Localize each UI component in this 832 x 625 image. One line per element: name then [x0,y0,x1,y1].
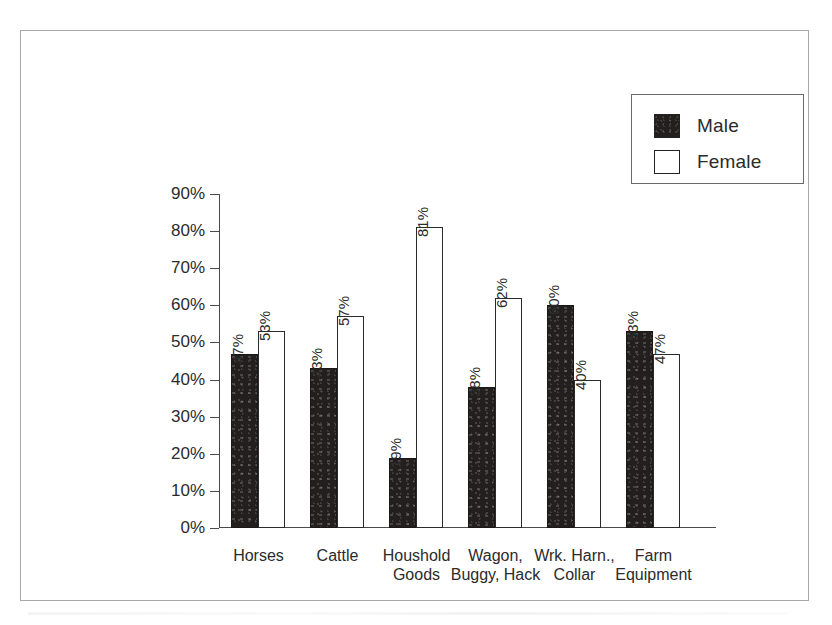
y-axis-tick [210,528,219,529]
bar-female[interactable]: 57% [337,316,364,528]
bar-group: 43%57% [310,194,365,528]
bar-female[interactable]: 62% [495,298,522,528]
y-axis-tick-label: 0% [180,518,205,538]
bar-male[interactable]: 47% [231,354,258,528]
y-axis-tick-label: 50% [171,332,205,352]
y-axis-tick [210,454,219,455]
chart-frame: Male Female 90%80%70%60%50%40%30%20%10%0… [20,30,809,601]
x-axis-category-label: FarmEquipment [604,546,704,584]
bar-group: 47%53% [231,194,286,528]
y-axis-tick-label: 30% [171,407,205,427]
legend-label-female: Female [697,151,762,173]
y-axis-tick-label: 10% [171,481,205,501]
y-axis-tick-label: 20% [171,444,205,464]
bar-group: 38%62% [468,194,523,528]
y-axis-tick [210,342,219,343]
bar-value-label: 53% [625,311,640,341]
bar-value-label: 47% [652,334,667,364]
bar-value-label: 57% [336,296,351,326]
y-axis-tick-label: 90% [171,184,205,204]
y-axis-tick [210,268,219,269]
bar-value-label: 40% [573,360,588,390]
y-axis-tick [210,231,219,232]
y-axis-tick [210,194,219,195]
y-axis-tick [210,417,219,418]
bar-male[interactable]: 60% [547,305,574,528]
bar-group: 19%81% [389,194,444,528]
bar-male[interactable]: 19% [389,458,416,529]
bar-group: 60%40% [547,194,602,528]
bar-value-label: 38% [467,367,482,397]
bar-value-label: 81% [415,207,430,237]
bar-value-label: 53% [257,311,272,341]
y-axis-tick-label: 70% [171,258,205,278]
y-axis-tick [210,380,219,381]
chart-legend: Male Female [631,94,804,184]
bar-value-label: 62% [494,278,509,308]
y-axis-tick [210,305,219,306]
y-axis-tick-label: 80% [171,221,205,241]
y-axis-tick-label: 40% [171,370,205,390]
legend-item-male: Male [654,108,803,144]
bar-value-label: 43% [309,348,324,378]
bar-value-label: 47% [230,334,245,364]
y-axis-line [219,194,220,528]
scan-artifact [28,612,788,615]
bar-group: 53%47% [626,194,681,528]
legend-label-male: Male [697,115,739,137]
bar-female[interactable]: 40% [574,380,601,528]
bar-female[interactable]: 53% [258,331,285,528]
legend-item-female: Female [654,144,803,180]
y-axis-tick [210,491,219,492]
plot-area: 90%80%70%60%50%40%30%20%10%0% 47%53%43%5… [219,194,716,528]
bar-male[interactable]: 43% [310,368,337,528]
legend-swatch-female-icon [654,150,680,174]
bar-value-label: 19% [388,437,403,467]
legend-swatch-male-icon [654,114,680,138]
bar-male[interactable]: 38% [468,387,495,528]
bar-value-label: 60% [546,285,561,315]
y-axis-tick-label: 60% [171,295,205,315]
bar-female[interactable]: 81% [416,227,443,528]
bar-male[interactable]: 53% [626,331,653,528]
bar-female[interactable]: 47% [653,354,680,528]
